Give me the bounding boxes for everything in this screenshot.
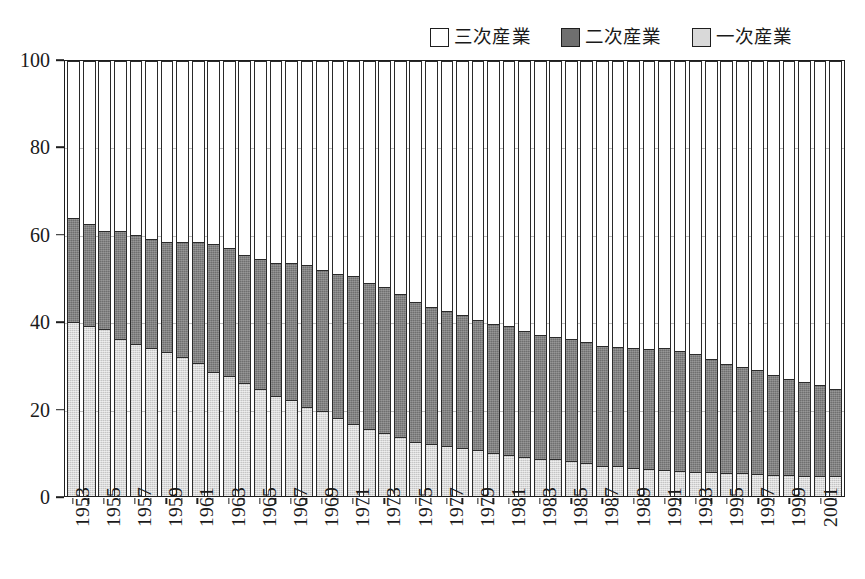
bar-segment-tertiary <box>98 61 111 231</box>
bar-column[interactable] <box>161 61 174 496</box>
bar-column[interactable] <box>285 61 298 496</box>
bar-segment-primary <box>301 407 314 496</box>
bar-column[interactable] <box>347 61 360 496</box>
bar-column[interactable] <box>254 61 267 496</box>
bar-column[interactable] <box>301 61 314 496</box>
x-axis-slot: 1993 <box>690 498 703 578</box>
bar-column[interactable] <box>751 61 764 496</box>
x-axis-slot: 1977 <box>440 498 453 578</box>
bar-column[interactable] <box>674 61 687 496</box>
bar-segment-tertiary <box>767 61 780 375</box>
bar-segment-tertiary <box>689 61 702 354</box>
bar-segment-tertiary <box>114 61 127 231</box>
bar-segment-primary <box>130 344 143 496</box>
bar-column[interactable] <box>378 61 391 496</box>
bar-segment-primary <box>176 357 189 496</box>
legend-swatch-primary-icon <box>692 28 711 47</box>
bar-segment-tertiary <box>347 61 360 276</box>
bar-segment-tertiary <box>192 61 205 242</box>
bar-segment-tertiary <box>409 61 422 302</box>
bar-column[interactable] <box>270 61 283 496</box>
bar-column[interactable] <box>503 61 516 496</box>
bar-column[interactable] <box>705 61 718 496</box>
bar-column[interactable] <box>643 61 656 496</box>
x-axis-tick-mark <box>462 498 463 504</box>
bar-column[interactable] <box>580 61 593 496</box>
x-axis-tick-mark <box>337 498 338 504</box>
bar-column[interactable] <box>316 61 329 496</box>
bar-segment-primary <box>145 348 158 496</box>
bar-segment-secondary <box>425 307 438 444</box>
bar-column[interactable] <box>627 61 640 496</box>
x-axis-slot: 1971 <box>347 498 360 578</box>
bar-column[interactable] <box>98 61 111 496</box>
bar-segment-tertiary <box>176 61 189 242</box>
bar-column[interactable] <box>472 61 485 496</box>
bar-segment-tertiary <box>254 61 267 259</box>
bar-column[interactable] <box>223 61 236 496</box>
bar-column[interactable] <box>829 61 842 496</box>
bar-column[interactable] <box>534 61 547 496</box>
bar-column[interactable] <box>441 61 454 496</box>
bar-column[interactable] <box>207 61 220 496</box>
x-axis-tick-mark <box>649 498 650 504</box>
bar-column[interactable] <box>596 61 609 496</box>
bar-segment-primary <box>363 429 376 496</box>
bar-column[interactable] <box>456 61 469 496</box>
chart-legend: 三次産業 二次産業 一次産業 <box>430 24 792 50</box>
x-axis-tick-mark <box>275 498 276 504</box>
bar-column[interactable] <box>814 61 827 496</box>
bar-segment-secondary <box>176 242 189 357</box>
bar-column[interactable] <box>332 61 345 496</box>
bar-column[interactable] <box>720 61 733 496</box>
y-axis-tick-mark <box>56 59 64 61</box>
x-axis-tick-mark <box>212 498 213 504</box>
bar-column[interactable] <box>487 61 500 496</box>
x-axis-slot: 1973 <box>378 498 391 578</box>
bar-column[interactable] <box>658 61 671 496</box>
bar-column[interactable] <box>114 61 127 496</box>
bar-segment-secondary <box>394 294 407 438</box>
bar-column[interactable] <box>565 61 578 496</box>
bar-segment-tertiary <box>223 61 236 248</box>
bar-segment-secondary <box>378 287 391 433</box>
x-axis-slot <box>207 498 220 578</box>
bar-segment-tertiary <box>425 61 438 307</box>
x-axis-tick-mark <box>88 498 89 504</box>
bar-column[interactable] <box>394 61 407 496</box>
x-axis-slot <box>799 498 812 578</box>
bar-column[interactable] <box>798 61 811 496</box>
bar-segment-primary <box>98 329 111 496</box>
bar-column[interactable] <box>689 61 702 496</box>
bar-segment-secondary <box>674 351 687 471</box>
x-axis-slot <box>487 498 500 578</box>
bar-column[interactable] <box>238 61 251 496</box>
x-axis-slot: 1999 <box>783 498 796 578</box>
x-axis-slot: 2001 <box>814 498 827 578</box>
bar-column[interactable] <box>518 61 531 496</box>
bar-column[interactable] <box>767 61 780 496</box>
bar-segment-secondary <box>814 385 827 476</box>
bar-column[interactable] <box>83 61 96 496</box>
x-axis-tick-mark <box>243 498 244 504</box>
x-axis-tick-mark <box>493 498 494 504</box>
bar-segment-secondary <box>580 342 593 464</box>
bar-segment-tertiary <box>658 61 671 348</box>
bar-column[interactable] <box>145 61 158 496</box>
bar-column[interactable] <box>425 61 438 496</box>
bar-column[interactable] <box>783 61 796 496</box>
bar-segment-secondary <box>145 239 158 348</box>
bar-segment-secondary <box>316 270 329 411</box>
bar-column[interactable] <box>612 61 625 496</box>
x-axis-slot: 1969 <box>316 498 329 578</box>
bar-column[interactable] <box>67 61 80 496</box>
bar-column[interactable] <box>363 61 376 496</box>
bar-column[interactable] <box>176 61 189 496</box>
bar-column[interactable] <box>549 61 562 496</box>
bar-column[interactable] <box>192 61 205 496</box>
bar-column[interactable] <box>736 61 749 496</box>
bar-segment-secondary <box>829 389 842 476</box>
bar-column[interactable] <box>130 61 143 496</box>
x-axis-slot: 1975 <box>409 498 422 578</box>
bar-column[interactable] <box>409 61 422 496</box>
